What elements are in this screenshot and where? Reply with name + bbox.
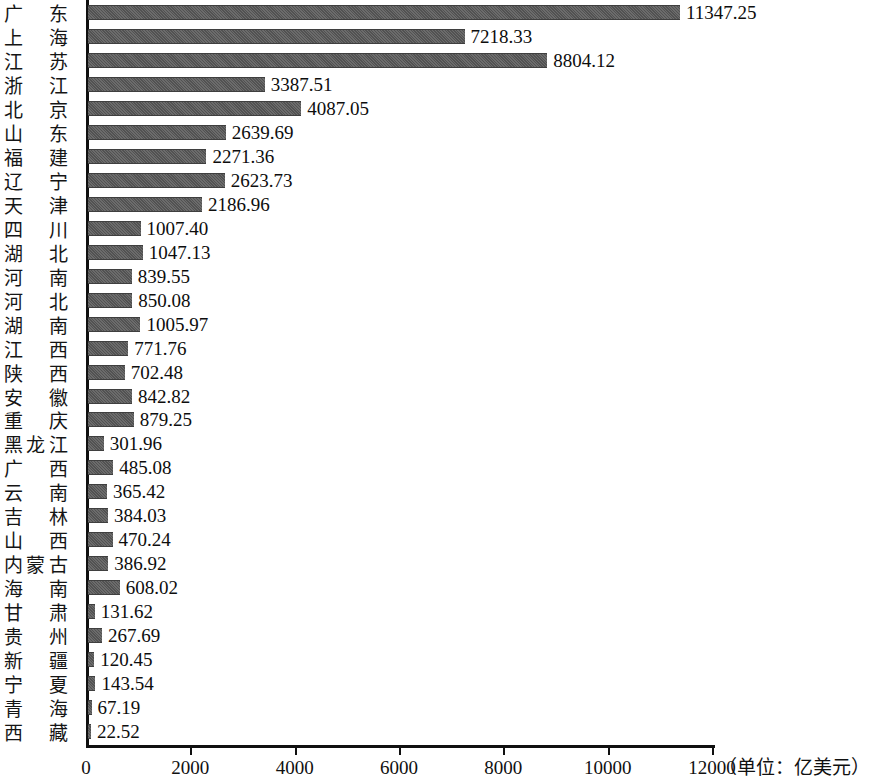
bar-value-label: 11347.25 <box>686 3 757 23</box>
category-label-char: 州 <box>47 628 69 647</box>
unit-note-label: （单位：亿美元） <box>718 757 870 778</box>
bar <box>88 269 132 284</box>
category-label-29: 宁夏 <box>0 673 86 697</box>
bar-value-label: 879.25 <box>140 410 192 430</box>
category-label-char: 西 <box>47 364 69 383</box>
category-label-char: 蒙 <box>24 556 46 575</box>
bar <box>88 317 140 332</box>
bar-value-label: 3387.51 <box>271 75 333 95</box>
x-axis-tick <box>399 748 401 755</box>
category-label-char: 青 <box>2 700 24 719</box>
bar-row: 850.08 <box>86 290 786 314</box>
bar-row: 143.54 <box>86 673 786 697</box>
bar-value-label: 386.92 <box>114 554 166 574</box>
bar <box>88 293 132 308</box>
bar <box>88 508 108 523</box>
category-label-char: 藏 <box>47 724 69 743</box>
category-label-char: 陕 <box>2 364 24 383</box>
bar-value-label: 470.24 <box>119 530 171 550</box>
bar-value-label: 608.02 <box>126 578 178 598</box>
bar-row: 384.03 <box>86 505 786 529</box>
category-label-5: 北京 <box>0 98 86 122</box>
category-label-char: 湖 <box>2 244 24 263</box>
category-label-char: 南 <box>47 484 69 503</box>
category-label-21: 云南 <box>0 481 86 505</box>
category-label-9: 天津 <box>0 194 86 218</box>
category-label-char: 京 <box>47 100 69 119</box>
bar <box>88 101 301 116</box>
category-label-char: 东 <box>47 5 69 24</box>
bar-value-label: 842.82 <box>138 387 190 407</box>
category-label-6: 山东 <box>0 122 86 146</box>
bar <box>88 412 134 427</box>
category-label-char: 北 <box>47 292 69 311</box>
category-label-char: 四 <box>2 220 24 239</box>
bar <box>88 484 107 499</box>
bar-value-label: 384.03 <box>114 506 166 526</box>
bar-row: 386.92 <box>86 553 786 577</box>
bar <box>88 173 225 188</box>
category-label-13: 河北 <box>0 290 86 314</box>
x-axis-tick-label: 8000 <box>484 757 522 778</box>
category-label-15: 江西 <box>0 338 86 362</box>
category-label-char: 吉 <box>2 508 24 527</box>
bar-row: 2271.36 <box>86 146 786 170</box>
category-label-17: 安徽 <box>0 386 86 410</box>
bar <box>88 149 206 164</box>
bar-row: 267.69 <box>86 625 786 649</box>
bar-row: 11347.25 <box>86 2 786 26</box>
bar-value-label: 1047.13 <box>149 243 211 263</box>
bar <box>88 676 95 691</box>
bar <box>88 628 102 643</box>
bar-row: 2639.69 <box>86 122 786 146</box>
bar-row: 1005.97 <box>86 314 786 338</box>
bar-value-label: 1005.97 <box>146 315 208 335</box>
category-label-12: 河南 <box>0 266 86 290</box>
bar-row: 470.24 <box>86 529 786 553</box>
bar-row: 702.48 <box>86 362 786 386</box>
category-label-2: 上海 <box>0 26 86 50</box>
category-label-1: 广东 <box>0 2 86 26</box>
category-label-char: 江 <box>2 340 24 359</box>
bar <box>88 341 128 356</box>
bar-row: 7218.33 <box>86 26 786 50</box>
category-label-char: 古 <box>47 556 69 575</box>
category-label-char: 云 <box>2 484 24 503</box>
category-label-23: 山西 <box>0 529 86 553</box>
category-label-char: 西 <box>47 460 69 479</box>
category-label-char: 广 <box>2 5 24 24</box>
bar <box>88 700 92 715</box>
category-label-char: 湖 <box>2 316 24 335</box>
bar-value-label: 143.54 <box>101 674 153 694</box>
category-label-char: 南 <box>47 316 69 335</box>
category-label-char: 宁 <box>47 172 69 191</box>
category-label-char: 宁 <box>2 676 24 695</box>
bar-value-label: 1007.40 <box>147 219 209 239</box>
category-label-char: 肃 <box>47 604 69 623</box>
category-label-char: 徽 <box>47 388 69 407</box>
bar-row: 839.55 <box>86 266 786 290</box>
category-label-3: 江苏 <box>0 50 86 74</box>
bar-value-label: 4087.05 <box>307 99 369 119</box>
bar-value-label: 2639.69 <box>232 123 294 143</box>
category-label-char: 夏 <box>47 676 69 695</box>
category-label-char: 山 <box>2 532 24 551</box>
category-label-11: 湖北 <box>0 242 86 266</box>
category-label-char: 西 <box>47 532 69 551</box>
bar-value-label: 2186.96 <box>208 195 270 215</box>
category-label-char: 南 <box>47 268 69 287</box>
category-label-char: 福 <box>2 148 24 167</box>
category-label-char: 江 <box>47 436 69 455</box>
bar-value-label: 2271.36 <box>212 147 274 167</box>
bar <box>88 436 104 451</box>
category-label-22: 吉林 <box>0 505 86 529</box>
category-label-char: 山 <box>2 124 24 143</box>
category-label-char: 庆 <box>47 412 69 431</box>
bar-row: 879.25 <box>86 409 786 433</box>
category-label-char: 甘 <box>2 604 24 623</box>
category-label-char: 新 <box>2 652 24 671</box>
category-label-26: 甘肃 <box>0 601 86 625</box>
category-label-25: 海南 <box>0 577 86 601</box>
bar <box>88 125 226 140</box>
bar-value-label: 485.08 <box>119 458 171 478</box>
